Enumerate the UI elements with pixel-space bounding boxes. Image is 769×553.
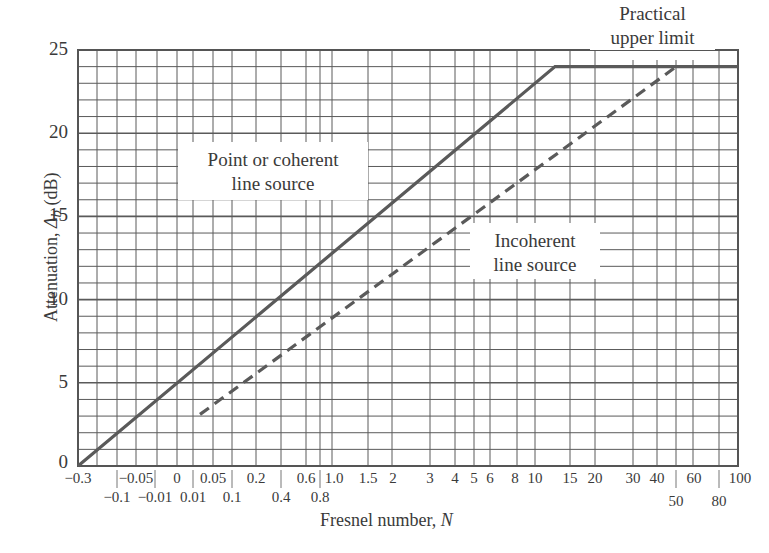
x-tick-label: −0.1 [103, 489, 130, 506]
x-tick-label: 60 [687, 470, 702, 487]
annotation-line-2: line source [178, 172, 368, 196]
x-tick-label: 6 [486, 470, 494, 487]
x-tick-label: 1.0 [325, 470, 344, 487]
x-tick-label: −0.01 [138, 489, 173, 506]
x-tick-label: 0.2 [247, 470, 266, 487]
annotation-line-2: upper limit [590, 26, 715, 50]
x-tick-label: 80 [712, 493, 727, 510]
x-tick-label: 0.4 [272, 489, 291, 506]
x-tick-label: 0 [173, 470, 181, 487]
x-tick-label: 3 [426, 470, 434, 487]
x-tick-label: 5 [470, 470, 478, 487]
annotation-line-1: Practical [590, 2, 715, 26]
y-axis-label: Attenuation, Δb (dB) [41, 142, 66, 352]
x-tick-label: 0.1 [223, 489, 242, 506]
x-tick-label: 0.05 [200, 470, 226, 487]
x-tick-label: 20 [588, 470, 603, 487]
annotation-line-1: Incoherent [470, 229, 600, 253]
x-tick-label: 8 [511, 470, 519, 487]
x-tick-label: 100 [729, 470, 752, 487]
x-tick-label: 30 [626, 470, 641, 487]
x-tick-label: −0.3 [64, 470, 91, 487]
annotation-line-2: line source [470, 253, 600, 277]
ytick-20: 20 [38, 121, 68, 143]
annotation-practical-upper-limit: Practical upper limit [590, 2, 715, 50]
x-tick-label: 10 [528, 470, 543, 487]
x-axis-label: Fresnel number, N [320, 510, 453, 531]
y-axis-label-text: Attenuation, [41, 228, 61, 322]
x-tick-label: 1.5 [359, 470, 378, 487]
delta-subscript: b [48, 210, 64, 218]
y-axis-unit: (dB) [41, 173, 61, 211]
x-axis-variable: N [441, 510, 453, 530]
grid [78, 50, 738, 466]
delta-symbol: Δ [41, 218, 61, 229]
x-tick-label: 0.01 [180, 489, 206, 506]
x-tick-label: −0.05 [119, 470, 154, 487]
x-tick-label: 0.8 [311, 489, 330, 506]
x-tick-label: 4 [451, 470, 459, 487]
x-axis-label-text: Fresnel number, [320, 510, 441, 530]
ytick-5: 5 [38, 371, 68, 393]
x-tick-label: 15 [563, 470, 578, 487]
annotation-point-source: Point or coherent line source [178, 146, 368, 198]
x-tick-label: 0.6 [297, 470, 316, 487]
x-tick-label: 40 [650, 470, 665, 487]
x-tick-label: 2 [389, 470, 397, 487]
x-tick-label: 50 [669, 493, 684, 510]
annotation-incoherent-source: Incoherent line source [470, 227, 600, 279]
ytick-25: 25 [38, 38, 68, 60]
annotation-line-1: Point or coherent [178, 148, 368, 172]
